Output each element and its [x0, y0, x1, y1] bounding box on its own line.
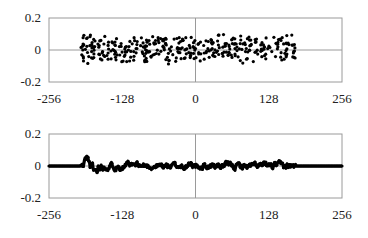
data-point	[221, 46, 224, 49]
data-point	[133, 39, 136, 42]
data-point	[133, 36, 136, 39]
x-tick-label: 256	[332, 207, 352, 222]
data-point	[217, 43, 220, 46]
data-point	[224, 42, 227, 45]
data-point	[277, 38, 280, 41]
data-point	[135, 47, 138, 50]
data-point	[136, 160, 139, 163]
data-point	[124, 50, 127, 53]
data-point	[183, 57, 186, 60]
data-point	[125, 60, 128, 63]
data-point	[86, 156, 89, 159]
data-point	[81, 45, 84, 48]
data-point	[212, 51, 215, 54]
x-tick-label: -256	[37, 91, 61, 106]
data-point	[248, 44, 251, 47]
data-point	[241, 167, 244, 170]
data-point	[163, 48, 166, 51]
data-point	[110, 162, 113, 165]
data-point	[144, 44, 147, 47]
data-point	[167, 62, 170, 65]
data-point	[165, 43, 168, 46]
data-point	[96, 171, 99, 174]
data-point	[148, 43, 151, 46]
data-point	[281, 162, 284, 165]
data-point	[192, 46, 195, 49]
data-point	[274, 42, 277, 45]
data-point	[225, 51, 228, 54]
y-tick-label: 0.2	[25, 126, 41, 141]
data-point	[89, 33, 92, 36]
data-point	[107, 58, 110, 61]
data-point	[86, 62, 89, 65]
data-point	[113, 53, 116, 56]
data-point	[142, 41, 145, 44]
data-point	[180, 57, 183, 60]
data-point	[237, 55, 240, 58]
data-point	[171, 53, 174, 56]
data-point	[246, 57, 249, 60]
data-point	[207, 40, 210, 43]
bottom-line-panel: 0.20-0.2-256-1280128256	[20, 126, 352, 222]
data-point	[259, 43, 262, 46]
data-point	[241, 42, 244, 45]
data-point	[156, 49, 159, 52]
data-point	[173, 38, 176, 41]
data-point	[132, 55, 135, 58]
y-tick-label: -0.2	[20, 74, 41, 89]
data-point	[90, 43, 93, 46]
data-point	[128, 40, 131, 43]
data-point	[131, 42, 134, 45]
data-point	[252, 60, 255, 63]
data-point	[256, 49, 259, 52]
data-point	[249, 39, 252, 42]
data-point	[201, 168, 204, 171]
data-point	[227, 53, 230, 56]
data-point	[101, 50, 104, 53]
data-point	[211, 47, 214, 50]
data-point	[188, 44, 191, 47]
data-point	[113, 50, 116, 53]
data-point	[192, 41, 195, 44]
data-point	[187, 51, 190, 54]
data-point	[154, 39, 157, 42]
x-tick-label: 128	[259, 91, 279, 106]
data-point	[92, 49, 95, 52]
data-point	[150, 56, 153, 59]
data-point	[245, 47, 248, 50]
data-point	[151, 35, 154, 38]
data-point	[107, 51, 110, 54]
data-point	[274, 55, 277, 58]
data-point	[80, 53, 83, 56]
data-point	[256, 53, 259, 56]
data-point	[222, 33, 225, 36]
data-point	[285, 47, 288, 50]
data-point	[190, 36, 193, 39]
data-point	[203, 58, 206, 61]
data-point	[169, 166, 172, 169]
data-point	[270, 50, 273, 53]
data-point	[117, 165, 120, 168]
data-point	[146, 41, 149, 44]
data-point	[182, 39, 185, 42]
data-point	[135, 43, 138, 46]
data-point	[189, 54, 192, 57]
data-point	[202, 44, 205, 47]
data-point	[91, 57, 94, 60]
data-point	[209, 38, 212, 41]
data-point	[174, 60, 177, 63]
data-point	[241, 62, 244, 65]
data-point	[279, 56, 282, 59]
data-point	[123, 55, 126, 58]
data-point	[147, 50, 150, 53]
data-point	[285, 54, 288, 57]
data-point	[82, 36, 85, 39]
data-point	[230, 53, 233, 56]
data-point	[153, 43, 156, 46]
data-point	[88, 160, 91, 163]
data-point	[97, 46, 100, 49]
data-point	[118, 45, 121, 48]
data-point	[340, 164, 343, 167]
data-point	[239, 42, 242, 45]
data-point	[93, 39, 96, 42]
